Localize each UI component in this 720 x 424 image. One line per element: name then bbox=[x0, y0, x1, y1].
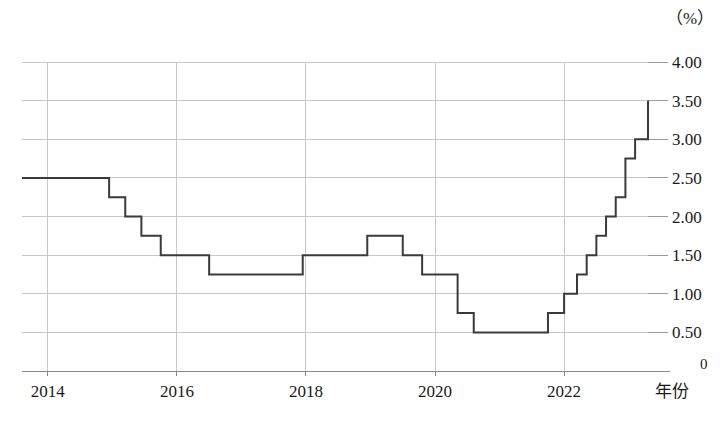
x-axis-tick-label: 2020 bbox=[405, 383, 465, 400]
x-axis-tick-label: 2018 bbox=[276, 383, 336, 400]
y-axis-tick-label: 3.00 bbox=[672, 131, 702, 148]
y-axis-tick-label: 3.50 bbox=[672, 93, 702, 110]
y-axis-tick-label: 1.00 bbox=[672, 286, 702, 303]
y-axis-zero-label: 0 bbox=[700, 357, 708, 372]
y-axis-tick-label: 2.50 bbox=[672, 170, 702, 187]
y-axis-tick-label: 2.00 bbox=[672, 209, 702, 226]
x-axis-tick-label: 2014 bbox=[18, 383, 78, 400]
x-axis-label: 年份 bbox=[655, 383, 689, 400]
y-axis-unit-label: （%） bbox=[666, 10, 714, 27]
chart-canvas bbox=[0, 0, 720, 424]
y-axis-tick-label: 1.50 bbox=[672, 247, 702, 264]
x-axis-tick-label: 2016 bbox=[147, 383, 207, 400]
x-axis-tickmarks bbox=[48, 371, 564, 376]
x-axis-tick-label: 2022 bbox=[534, 383, 594, 400]
y-axis-tick-label: 4.00 bbox=[672, 54, 702, 71]
y-axis-tick-label: 0.50 bbox=[672, 324, 702, 341]
step-chart: 0.501.001.502.002.503.003.504.00 2014201… bbox=[0, 0, 720, 424]
